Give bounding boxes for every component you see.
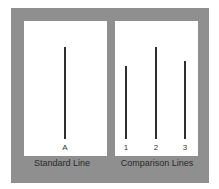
comparison-line-1-label: 1 [120, 143, 132, 152]
diagram-frame: A Standard Line 1 2 3 Comparison Lines [11, 8, 209, 183]
standard-line-panel: A [24, 21, 107, 156]
standard-line-label: A [59, 143, 71, 152]
comparison-line-3 [184, 61, 186, 139]
comparison-line-2-label: 2 [150, 143, 162, 152]
comparison-line-2 [155, 47, 157, 139]
comparison-line-1 [125, 66, 127, 139]
standard-line-caption: Standard Line [16, 158, 108, 168]
standard-line-a [64, 47, 66, 139]
comparison-line-3-label: 3 [179, 143, 191, 152]
comparison-lines-caption: Comparison Lines [111, 158, 203, 168]
comparison-lines-panel: 1 2 3 [115, 21, 198, 156]
